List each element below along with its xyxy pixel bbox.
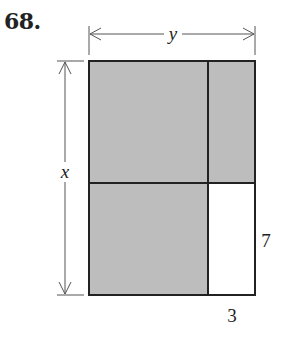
region-bottom-right — [208, 183, 255, 295]
region-top-right — [208, 61, 255, 183]
area-diagram: y x 7 3 — [0, 0, 284, 339]
region-bottom-left — [89, 183, 208, 295]
region-top-left — [89, 61, 208, 183]
small-height-label: 7 — [261, 230, 271, 251]
small-width-label: 3 — [227, 305, 237, 326]
height-label: x — [60, 161, 70, 182]
width-label: y — [167, 23, 178, 44]
